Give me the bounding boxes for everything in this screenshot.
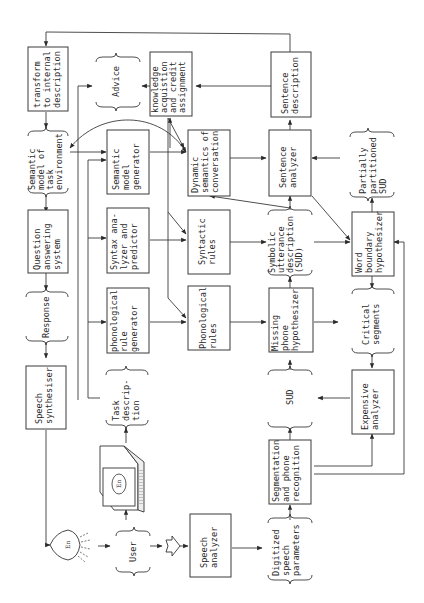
node-phonological-rule-generator: phonologicalrulegenerator — [107, 288, 149, 353]
speech-understanding-system-diagram: transformto internaldescription Advice k… — [0, 0, 424, 603]
edge-sentence-desc-to-transform — [46, 32, 290, 52]
node-label: conversation — [210, 131, 220, 193]
node-label: Sentence — [280, 73, 290, 114]
node-label: SUD — [285, 389, 295, 405]
node-label: Response — [41, 297, 51, 338]
node-label: Word — [354, 252, 364, 273]
node-label: User — [128, 541, 138, 562]
node-missing-phone: Missingphonehypothesizer — [269, 288, 313, 352]
node-label: phone — [280, 325, 290, 351]
node-label: Expensive — [360, 383, 370, 430]
node-phonological-rules: Phonologicalrules — [188, 286, 230, 350]
node-label: hypothesizer — [290, 289, 300, 351]
edge-sud-to-dynamic — [210, 196, 290, 208]
node-label: Phonological — [198, 287, 208, 349]
node-digitized: Digitizedspeechparameters — [268, 514, 312, 584]
edge-knowledge-to-phonrules — [168, 212, 186, 318]
node-label: rule — [119, 331, 129, 352]
svg-text:knowledgeacquistionand credita: knowledgeacquistionand creditassignment — [150, 61, 187, 113]
node-label: speech — [281, 545, 291, 576]
node-label: SUD — [378, 178, 388, 194]
node-label: rules — [208, 323, 218, 349]
terminal-icon: En — [100, 446, 144, 512]
node-sentence-description: Sentencedescription — [271, 52, 311, 117]
node-user: User — [116, 527, 150, 576]
node-label: Advice — [111, 66, 121, 97]
node-label: tion — [131, 400, 141, 421]
node-label: Critical — [361, 304, 371, 345]
node-syntactic-rules: Syntacticrules — [188, 210, 230, 274]
node-label: Semantic — [111, 149, 121, 190]
node-label: Syntax ana- — [109, 213, 119, 270]
node-label: model — [121, 164, 131, 190]
node-label: description — [52, 51, 62, 108]
node-label: Sentence — [278, 147, 288, 188]
node-label: Syntactic — [197, 218, 207, 265]
node-label: answering — [42, 223, 52, 270]
edge-seg-to-wordboundary — [314, 242, 404, 474]
node-label: Partially — [358, 147, 368, 194]
node-label: recognition — [291, 445, 301, 502]
edge-synth-to-speaker — [46, 430, 50, 545]
node-label: description — [290, 57, 300, 114]
node-label: segments — [371, 304, 381, 345]
node-label: generator — [129, 305, 139, 352]
node-dynamic-semantics: Dynamicsemantics ofconversation — [188, 130, 230, 196]
node-response: Response — [26, 288, 68, 345]
svg-text:Semanticmodel oftaskenvironmen: Semanticmodel oftaskenvironment — [27, 133, 64, 190]
microphone-icon — [166, 536, 180, 556]
svg-text:Digitizedspeechparameters: Digitizedspeechparameters — [271, 524, 301, 576]
node-question-answering: Questionansweringsystem — [28, 210, 68, 273]
svg-text:Expensiveanalyzer: Expensiveanalyzer — [360, 383, 380, 430]
node-expensive-analyzer: Expensiveanalyzer — [352, 370, 394, 434]
node-label: Missing — [270, 315, 280, 351]
node-label: lyzer and — [119, 223, 129, 270]
speaker-label: En — [64, 541, 71, 549]
node-label: Digitized — [271, 529, 281, 576]
node-label: environment — [54, 133, 64, 190]
node-semantic-model-generator: Semanticmodelgenerator — [107, 130, 149, 194]
node-label: partitioned — [368, 137, 378, 194]
node-label: Dynamic — [190, 157, 200, 193]
node-label: generator — [131, 143, 141, 190]
edge-seg-to-expensive — [314, 434, 372, 466]
node-label: descrip- — [121, 380, 131, 421]
node-label: Question — [32, 229, 42, 270]
node-label: system — [52, 239, 62, 270]
node-partially-partitioned-sud: PartiallypartitionedSUD — [350, 128, 394, 201]
terminal-label: En — [115, 480, 122, 488]
speaker-head-icon: En — [50, 530, 90, 562]
node-sentence-analyzer: Sentenceanalyzer — [269, 130, 311, 196]
node-speech-analyzer: Speechanalyzer — [190, 514, 231, 577]
node-speech-synthesizer: Speechsynthesiser — [26, 366, 66, 429]
node-transform: transformto internaldescription — [28, 47, 68, 111]
node-label: analyzer — [209, 527, 219, 568]
node-label: analyzer — [370, 389, 380, 430]
node-sud: Symbolicutterancedescription(SUD) — [267, 206, 312, 279]
node-label: boundary — [364, 232, 374, 273]
svg-text:Criticalsegments: Criticalsegments — [361, 304, 381, 345]
node-label: synthesiser — [44, 367, 54, 424]
svg-text:Sentenceanalyzer: Sentenceanalyzer — [278, 147, 298, 188]
node-label: semantics of — [200, 131, 210, 193]
node-label: rules — [207, 239, 217, 265]
node-label: analyzer — [288, 147, 298, 188]
node-label: Segmentation — [271, 440, 281, 502]
edge-taskdesc-to-semgen — [88, 160, 106, 398]
svg-text:Symbolicutterancedescription(S: Symbolicutterancedescription(SUD) — [267, 216, 304, 273]
node-segmentation: Segmentationand phonerecognition — [269, 440, 311, 504]
node-knowledge: knowledgeacquistionand creditassignment — [150, 52, 192, 116]
node-task-description: Taskdescrip-tion — [106, 366, 148, 429]
edge-analyzer-to-wordboundary — [312, 196, 350, 240]
node-label: transform — [32, 61, 42, 108]
node-sud-small: SUD — [268, 366, 312, 431]
node-label: Task — [111, 399, 121, 421]
node-semantic-model-task: Semanticmodel oftaskenvironment — [27, 127, 68, 197]
node-label: Speech — [34, 393, 44, 424]
edge-loop-to-advice — [78, 86, 92, 400]
node-word-boundary: Wordboundaryhypothesizer — [352, 211, 394, 276]
node-label: Speech — [199, 537, 209, 568]
svg-text:PartiallypartitionedSUD: PartiallypartitionedSUD — [358, 137, 388, 194]
node-label: assignment — [177, 61, 187, 113]
svg-text:Taskdescrip-tion: Taskdescrip-tion — [111, 380, 141, 421]
